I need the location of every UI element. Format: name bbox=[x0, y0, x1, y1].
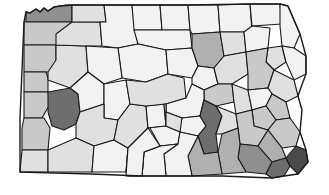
county-tioga[interactable] bbox=[188, 5, 220, 34]
map-figure bbox=[0, 0, 329, 195]
county-allegheny[interactable] bbox=[48, 88, 80, 130]
county-susquehanna[interactable] bbox=[250, 4, 282, 26]
county-greene[interactable] bbox=[20, 150, 48, 172]
county-bradford[interactable] bbox=[218, 4, 252, 32]
county-potter[interactable] bbox=[160, 5, 190, 30]
counties-layer bbox=[20, 4, 308, 178]
county-mckean[interactable] bbox=[132, 5, 162, 30]
county-warren[interactable] bbox=[72, 5, 106, 22]
county-washington[interactable] bbox=[22, 118, 50, 150]
pennsylvania-county-choropleth bbox=[0, 0, 329, 195]
county-lawrence[interactable] bbox=[24, 72, 48, 92]
county-blair[interactable] bbox=[146, 104, 166, 128]
